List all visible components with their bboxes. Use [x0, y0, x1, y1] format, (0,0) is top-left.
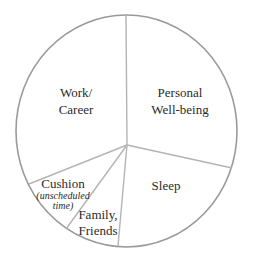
slice-label-family-friends: Family, Friends	[78, 207, 117, 238]
label-personal-line2: Well-being	[151, 102, 209, 117]
label-cushion-sub2: time)	[53, 200, 74, 212]
label-work-line2: Career	[59, 102, 94, 117]
label-work-line1: Work/	[60, 85, 93, 100]
label-sleep: Sleep	[152, 178, 181, 193]
divider-top	[126, 15, 127, 145]
pie-chart: Personal Well-being Work/ Career Sleep C…	[0, 0, 253, 261]
label-personal-line1: Personal	[158, 85, 203, 100]
slice-label-sleep: Sleep	[152, 178, 181, 193]
label-cushion-line1: Cushion	[41, 176, 85, 191]
label-family-line2: Friends	[79, 223, 118, 238]
label-family-line1: Family,	[78, 207, 117, 222]
